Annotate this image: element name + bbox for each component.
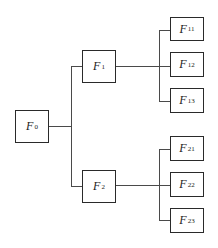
node-f12: F12 xyxy=(170,52,204,77)
connector-f2-trunk xyxy=(159,149,160,221)
node-f12-subscript: 12 xyxy=(188,61,195,69)
node-f2-label: F xyxy=(93,179,100,194)
node-f0-subscript: 0 xyxy=(34,123,38,131)
node-f13-label: F xyxy=(179,93,186,108)
connector-to-f23 xyxy=(159,220,170,221)
node-f1-subscript: 1 xyxy=(101,63,105,71)
node-f13: F13 xyxy=(170,88,204,113)
connector-f2-out xyxy=(115,185,170,186)
connector-f1-out xyxy=(115,66,170,67)
connector-f0-trunk xyxy=(49,126,71,127)
node-f11-subscript: 11 xyxy=(188,25,195,33)
tree-diagram: F0 F1 F2 F11 F12 F13 F21 F22 F23 xyxy=(0,0,218,248)
node-f23: F23 xyxy=(170,208,204,233)
connector-to-f2 xyxy=(71,186,82,187)
connector-level1-trunk xyxy=(71,66,72,187)
node-f2-subscript: 2 xyxy=(101,183,105,191)
node-f0-label: F xyxy=(26,119,33,134)
connector-to-f21 xyxy=(159,149,170,150)
node-f23-label: F xyxy=(179,213,186,228)
node-f1: F1 xyxy=(82,50,116,83)
node-f12-label: F xyxy=(179,57,186,72)
connector-to-f1 xyxy=(71,66,82,67)
node-f1-label: F xyxy=(93,59,100,74)
node-f22-label: F xyxy=(179,177,186,192)
node-f13-subscript: 13 xyxy=(188,97,195,105)
connector-to-f13 xyxy=(159,101,170,102)
node-f11: F11 xyxy=(170,17,204,41)
node-f2: F2 xyxy=(82,170,116,203)
node-f22: F22 xyxy=(170,172,204,197)
node-f21: F21 xyxy=(170,136,204,161)
node-f22-subscript: 22 xyxy=(188,181,195,189)
connector-f1-trunk xyxy=(159,30,160,102)
node-f11-label: F xyxy=(179,22,186,37)
node-f0: F0 xyxy=(15,110,49,143)
node-f21-label: F xyxy=(179,141,186,156)
connector-to-f11 xyxy=(159,30,170,31)
node-f23-subscript: 23 xyxy=(188,217,195,225)
node-f21-subscript: 21 xyxy=(188,145,195,153)
